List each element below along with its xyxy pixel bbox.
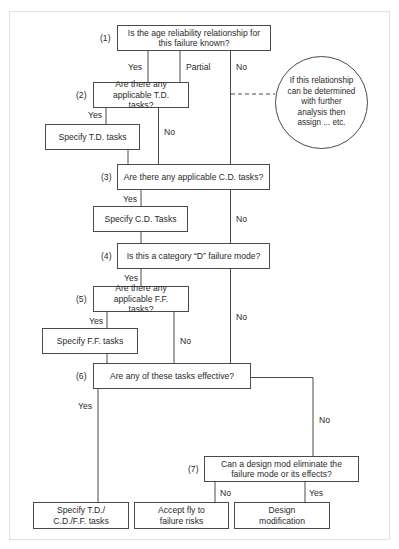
edge-label-q1-yes: Yes bbox=[128, 62, 142, 72]
step-number-6: (6) bbox=[76, 371, 87, 381]
end-text-design-modification: Design modification bbox=[252, 505, 312, 526]
decision-text-6: Are any of these tasks effective? bbox=[110, 371, 234, 382]
decision-box-3: Are there any applicable C.D. tasks? bbox=[117, 164, 270, 190]
edge-label-q6-yes: Yes bbox=[78, 401, 92, 411]
action-box-specify-cd: Specify C.D. Tasks bbox=[93, 206, 188, 232]
edge-label-q1-no: No bbox=[236, 62, 247, 72]
edge-label-q2-yes: Yes bbox=[88, 110, 102, 120]
edge-label-q3-yes: Yes bbox=[123, 194, 137, 204]
decision-box-2: Are there any applicable T.D. tasks? bbox=[93, 82, 189, 108]
end-text-accept-risk: Accept fly to failure risks bbox=[152, 505, 212, 526]
edge-label-q4-no: No bbox=[236, 312, 247, 322]
decision-text-2: Are there any applicable T.D. tasks? bbox=[101, 79, 181, 111]
decision-box-6: Are any of these tasks effective? bbox=[93, 363, 251, 389]
step-number-1: (1) bbox=[100, 33, 111, 43]
edge-label-q7-yes: Yes bbox=[309, 488, 323, 498]
action-text-specify-ff: Specify F.F. tasks bbox=[57, 336, 123, 347]
action-box-specify-td: Specify T.D. tasks bbox=[45, 124, 140, 150]
step-number-2: (2) bbox=[76, 90, 87, 100]
edge-label-q5-no: No bbox=[180, 336, 191, 346]
step-number-4: (4) bbox=[101, 251, 112, 261]
action-text-specify-td: Specify T.D. tasks bbox=[58, 132, 126, 143]
decision-text-7: Can a design mod eliminate the failure m… bbox=[212, 459, 352, 480]
edge-label-q5-yes: Yes bbox=[89, 316, 103, 326]
decision-text-3: Are there any applicable C.D. tasks? bbox=[124, 172, 263, 183]
note-text: If this relationship can be determined w… bbox=[286, 76, 358, 129]
step-number-5: (5) bbox=[76, 294, 87, 304]
decision-text-4: Is this a category “D” failure mode? bbox=[127, 251, 261, 262]
action-text-specify-cd: Specify C.D. Tasks bbox=[105, 214, 177, 225]
decision-box-5: Are there any applicable F.F. tasks? bbox=[93, 286, 189, 312]
decision-box-1: Is the age reliability relationship for … bbox=[117, 25, 271, 51]
edge-label-q1-partial: Partial bbox=[186, 62, 210, 72]
end-text-specify-tasks: Specify T.D./ C.D./F.F. tasks bbox=[46, 505, 116, 526]
note-circle: If this relationship can be determined w… bbox=[275, 56, 368, 149]
step-number-3: (3) bbox=[101, 172, 112, 182]
action-box-specify-ff: Specify F.F. tasks bbox=[42, 328, 138, 354]
decision-box-7: Can a design mod eliminate the failure m… bbox=[204, 456, 359, 482]
edge-label-q2-no: No bbox=[164, 127, 175, 137]
step-number-7: (7) bbox=[188, 464, 199, 474]
end-box-design-modification: Design modification bbox=[234, 502, 330, 529]
end-box-accept-risk: Accept fly to failure risks bbox=[134, 502, 229, 529]
end-box-specify-tasks: Specify T.D./ C.D./F.F. tasks bbox=[33, 502, 129, 529]
edge-label-q3-no: No bbox=[236, 214, 247, 224]
decision-text-5: Are there any applicable F.F. tasks? bbox=[101, 283, 181, 315]
edge-label-q7-no: No bbox=[220, 488, 231, 498]
edge-label-q4-yes: Yes bbox=[124, 273, 138, 283]
decision-text-1: Is the age reliability relationship for … bbox=[121, 28, 267, 49]
decision-box-4: Is this a category “D” failure mode? bbox=[117, 243, 270, 269]
edge-label-q6-no: No bbox=[319, 415, 330, 425]
